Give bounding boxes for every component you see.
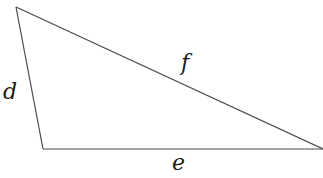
triangle-diagram: d f e [0, 0, 323, 178]
label-d: d [3, 79, 17, 104]
label-e: e [172, 150, 185, 175]
label-f: f [179, 50, 193, 75]
side-d [16, 7, 43, 149]
side-f [16, 7, 323, 149]
